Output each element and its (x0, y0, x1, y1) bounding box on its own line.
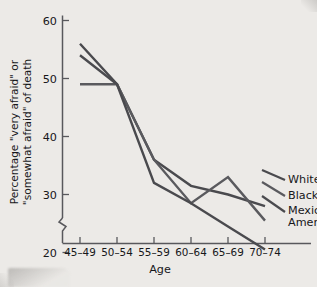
y-tick-label-20: 20 (43, 247, 57, 260)
chart-figure: 2030405060Percentage "very afraid" or"so… (0, 0, 317, 287)
x-tick-label-4: 65–69 (212, 246, 244, 258)
y-tick-label-40: 40 (43, 131, 57, 144)
y-tick-label-30: 30 (43, 189, 57, 202)
legend-label-whites: Whites (288, 173, 317, 186)
line-chart-svg: 2030405060Percentage "very afraid" or"so… (0, 0, 317, 287)
y-axis-title: Percentage "very afraid" or"somewhat afr… (8, 59, 33, 205)
legend-label-blacks: Blacks (288, 189, 317, 202)
y-tick-label-60: 60 (43, 15, 57, 28)
x-tick-label-5: 70–74 (249, 246, 281, 258)
y-tick-label-50: 50 (43, 73, 57, 86)
x-tick-label-0: 45–49 (64, 246, 96, 258)
legend-label-americans: Americans (288, 216, 317, 229)
x-tick-label-2: 55–59 (138, 246, 170, 258)
x-tick-label-1: 50–54 (101, 246, 133, 258)
y-axis-title-line-1: Percentage "very afraid" or (8, 59, 20, 204)
x-tick-label-3: 60–64 (175, 246, 207, 258)
x-axis-title: Age (149, 263, 171, 276)
y-axis-title-line-2: "somewhat afraid" of death (21, 59, 33, 205)
